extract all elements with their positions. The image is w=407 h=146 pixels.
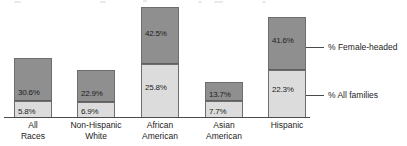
callout-leader-all-families: [306, 95, 324, 96]
x-axis-label-non-hispanic-white: Non-Hispanic White: [62, 120, 130, 141]
bar-value-label: 5.8%: [18, 107, 35, 116]
x-axis-label-all-races: All Races: [9, 120, 57, 141]
bar-segment-all-families: 22.3%: [268, 70, 306, 118]
bar-segment-female-headed: 42.5%: [141, 7, 179, 64]
bar-asian-american: 13.7% 7.7%: [205, 82, 243, 118]
bar-value-label: 25.8%: [145, 83, 167, 92]
bar-value-label: 41.6%: [272, 36, 294, 45]
callout-leader-female-headed: [306, 47, 324, 48]
x-axis-label-line: Hispanic: [255, 120, 319, 131]
x-axis-label-line: All: [9, 120, 57, 131]
bar-segment-female-headed: 41.6%: [268, 17, 306, 70]
bar-segment-female-headed: 30.6%: [14, 58, 52, 101]
x-axis-label-asian-american: Asian American: [192, 120, 256, 141]
bar-value-label: 22.9%: [81, 89, 103, 98]
x-axis-line: [4, 117, 310, 118]
bar-segment-all-families: 25.8%: [141, 64, 179, 118]
bar-non-hispanic-white: 22.9% 6.9%: [77, 70, 115, 118]
bar-segment-female-headed: 13.7%: [205, 82, 243, 101]
x-axis-label-line: Races: [9, 131, 57, 142]
x-axis-label-line: African: [128, 120, 192, 131]
x-axis-label-line: Non-Hispanic: [62, 120, 130, 131]
bar-segment-female-headed: 22.9%: [77, 70, 115, 102]
plot-area: 30.6% 5.8% 22.9% 6.9% 42.5% 25.8%: [0, 0, 310, 118]
bar-segment-all-families: 5.8%: [14, 101, 52, 118]
bar-segment-all-families: 7.7%: [205, 101, 243, 118]
x-axis-label-line: American: [128, 131, 192, 142]
bar-value-label: 6.9%: [81, 107, 98, 116]
callout-label-female-headed: % Female-headed: [328, 42, 397, 52]
x-axis-label-line: Asian: [192, 120, 256, 131]
bar-value-label: 13.7%: [209, 90, 231, 99]
bar-value-label: 42.5%: [145, 29, 167, 38]
bar-hispanic: 41.6% 22.3%: [268, 17, 306, 118]
bar-value-label: 30.6%: [18, 88, 40, 97]
x-axis-label-african-american: African American: [128, 120, 192, 141]
x-axis-label-line: American: [192, 131, 256, 142]
bar-all-races: 30.6% 5.8%: [14, 58, 52, 118]
callout-label-all-families: % All families: [328, 90, 378, 100]
bar-value-label: 22.3%: [272, 85, 294, 94]
bar-african-american: 42.5% 25.8%: [141, 7, 179, 118]
bar-segment-all-families: 6.9%: [77, 102, 115, 118]
x-axis-label-line: White: [62, 131, 130, 142]
x-axis-label-hispanic: Hispanic: [255, 120, 319, 131]
stacked-bar-chart: 30.6% 5.8% 22.9% 6.9% 42.5% 25.8%: [0, 0, 407, 146]
bar-value-label: 7.7%: [209, 107, 226, 116]
